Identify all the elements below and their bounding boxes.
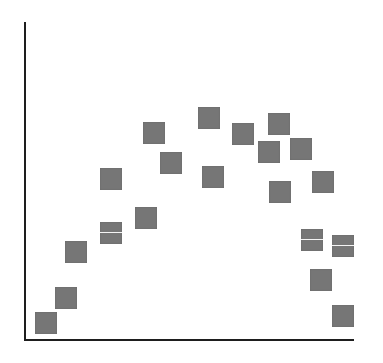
data-point-marker [55, 287, 77, 309]
data-point-marker [160, 152, 182, 174]
x-axis-line [24, 339, 354, 341]
data-point-marker [100, 168, 122, 190]
data-point-marker [258, 141, 280, 163]
data-point-marker [332, 305, 354, 327]
data-point-marker [135, 207, 157, 229]
data-point-marker [269, 181, 291, 203]
data-point-marker [301, 229, 323, 251]
data-point-marker [198, 107, 220, 129]
data-point-marker [202, 166, 224, 188]
data-point-marker [232, 123, 254, 145]
data-point-marker [143, 122, 165, 144]
data-point-marker [312, 171, 334, 193]
data-point-marker [268, 113, 290, 135]
data-point-marker [290, 138, 312, 160]
data-point-marker [65, 241, 87, 263]
data-point-marker [35, 312, 57, 334]
data-point-marker [332, 235, 354, 257]
data-point-marker [100, 222, 122, 244]
y-axis-line [24, 22, 26, 341]
scatter-plot [0, 0, 383, 363]
data-point-marker [310, 269, 332, 291]
